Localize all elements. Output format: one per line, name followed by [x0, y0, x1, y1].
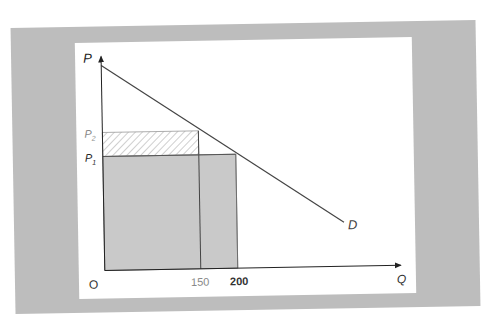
p2-label: P2	[84, 128, 96, 142]
origin-label: O	[89, 278, 99, 292]
demand-label: D	[348, 217, 358, 232]
x-axis-label: Q	[397, 272, 407, 286]
revenue-area-p1	[103, 154, 238, 270]
hatched-area-p2	[102, 131, 198, 157]
chart-panel: P Q O D P2 P1 150 200	[75, 37, 416, 299]
tick-200: 200	[230, 275, 249, 287]
demand-chart: P Q O D P2 P1 150 200	[75, 37, 416, 299]
tick-150: 150	[191, 276, 210, 288]
y-axis-label: P	[83, 51, 92, 66]
figure-frame: P Q O D P2 P1 150 200	[11, 20, 481, 314]
p1-label: P1	[85, 152, 97, 166]
